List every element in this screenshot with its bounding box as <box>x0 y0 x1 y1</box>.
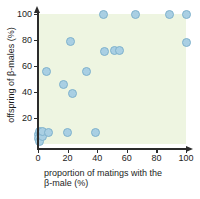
x-axis-tick-label: 80 <box>151 154 161 163</box>
data-point <box>63 128 72 137</box>
y-axis-tick <box>34 40 37 41</box>
data-point <box>82 67 91 76</box>
x-axis-tick-label: 100 <box>178 154 193 163</box>
y-axis-arrow-icon <box>34 6 40 13</box>
data-point <box>182 38 191 47</box>
data-point <box>91 128 100 137</box>
y-axis-line <box>37 12 39 150</box>
data-point <box>115 46 124 55</box>
x-axis-line <box>37 148 187 150</box>
x-axis-tick-label: 40 <box>92 154 102 163</box>
scatter-plot-figure: 02040608010020406080100 proportion of ma… <box>0 0 200 199</box>
data-point <box>182 10 191 19</box>
y-axis-tick <box>34 66 37 67</box>
y-axis-tick <box>34 118 37 119</box>
x-axis-tick-label: 0 <box>35 154 40 163</box>
x-axis-tick-label: 20 <box>63 154 73 163</box>
data-point <box>100 47 109 56</box>
x-axis-title-line1: proportion of matings with the <box>44 168 194 178</box>
data-point <box>165 10 174 19</box>
y-axis-tick <box>34 14 37 15</box>
data-point <box>59 80 68 89</box>
data-point <box>99 10 108 19</box>
data-point <box>44 128 53 137</box>
data-point <box>42 67 51 76</box>
data-point <box>66 37 75 46</box>
x-axis-tick-label: 60 <box>122 154 132 163</box>
x-axis-title: proportion of matings with the β-male (%… <box>44 168 194 189</box>
plot-area <box>38 14 186 144</box>
y-axis-tick <box>34 92 37 93</box>
y-axis-title: offspring of β-males (%) <box>6 10 16 140</box>
x-axis-title-line2: β-male (%) <box>44 178 194 188</box>
data-point <box>68 89 77 98</box>
data-point <box>131 10 140 19</box>
